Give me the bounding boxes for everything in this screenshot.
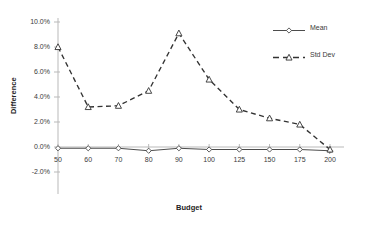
x-axis-tick-label: 200 [315, 156, 345, 163]
y-axis-tick-label: 6.0% [0, 68, 50, 75]
x-axis-tick-label: 70 [103, 156, 133, 163]
legend-marker-icon [272, 49, 306, 60]
y-axis-tick-label: 8.0% [0, 43, 50, 50]
y-axis-tick-label: -2.0% [0, 168, 50, 175]
data-point-marker [297, 121, 303, 127]
chart-legend: MeanStd Dev [272, 22, 376, 76]
data-point-marker [86, 146, 91, 151]
y-axis-title: Difference [10, 66, 18, 126]
data-point-marker [116, 146, 121, 151]
data-point-marker [146, 148, 151, 153]
y-axis-tick-label: 10.0% [0, 18, 50, 25]
legend-label: Std Dev [310, 50, 335, 59]
x-axis-tick-label: 50 [43, 156, 73, 163]
y-axis-tick-label: 0.0% [0, 143, 50, 150]
x-axis-tick-label: 175 [285, 156, 315, 163]
data-point-marker [55, 146, 60, 151]
data-point-marker [267, 147, 272, 152]
series-line [58, 148, 330, 151]
y-axis-tick-label: 4.0% [0, 93, 50, 100]
legend-marker-icon [272, 22, 306, 33]
x-axis-tick-label: 80 [134, 156, 164, 163]
legend-item-std-dev[interactable]: Std Dev [272, 49, 376, 60]
data-point-marker [176, 30, 182, 36]
y-axis-tick-label: 2.0% [0, 118, 50, 125]
data-point-marker [146, 88, 152, 94]
data-point-marker [207, 147, 212, 152]
legend-label: Mean [310, 23, 328, 32]
legend-item-mean[interactable]: Mean [272, 22, 376, 33]
chart-container: 10.0%8.0%6.0%4.0%2.0%0.0%-2.0% 506070809… [0, 0, 378, 225]
x-axis-tick-label: 100 [194, 156, 224, 163]
x-axis-tick-label: 125 [224, 156, 254, 163]
data-point-marker [237, 147, 242, 152]
x-axis-tick-label: 150 [255, 156, 285, 163]
x-axis-tick-label: 60 [73, 156, 103, 163]
x-axis-tick-label: 90 [164, 156, 194, 163]
x-axis-title: Budget [0, 204, 378, 212]
data-point-marker [297, 147, 302, 152]
data-point-marker [176, 146, 181, 151]
